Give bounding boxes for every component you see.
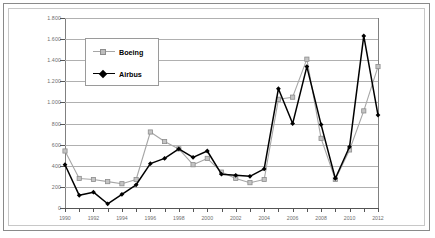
x-axis-tick-label: 2012 xyxy=(363,215,393,221)
y-axis-tick-label: 800 xyxy=(0,121,61,127)
x-axis-tick-label: 1994 xyxy=(107,215,137,221)
y-axis-tick-label: 1.200 xyxy=(0,78,61,84)
data-point-airbus-1991 xyxy=(77,193,82,198)
data-point-boeing-2012 xyxy=(376,64,380,68)
data-point-boeing-1997 xyxy=(162,139,166,143)
x-axis-tick-label: 2002 xyxy=(221,215,251,221)
x-axis-tick-label: 2000 xyxy=(192,215,222,221)
x-axis-tick-label: 1996 xyxy=(135,215,165,221)
y-axis-tick-label: 400 xyxy=(0,163,61,169)
chart-page: 02004006008001.0001.2001.4001.6001.800 1… xyxy=(0,0,435,238)
data-point-boeing-1995 xyxy=(134,177,138,181)
data-point-boeing-2000 xyxy=(205,156,209,160)
x-axis-tick-label: 2006 xyxy=(278,215,308,221)
legend-marker-airbus xyxy=(91,69,117,79)
x-axis-tick-label: 2010 xyxy=(335,215,365,221)
data-point-boeing-2008 xyxy=(319,136,323,140)
chart-legend: Boeing Airbus xyxy=(85,38,159,86)
y-axis-tick-label: 1.800 xyxy=(0,15,61,21)
x-axis-tick-label: 2008 xyxy=(306,215,336,221)
x-axis-label-group: 1990199219941996199820002002200420062008… xyxy=(65,209,379,223)
x-axis-tick-label: 2004 xyxy=(249,215,279,221)
x-axis-tick-label: 1990 xyxy=(50,215,80,221)
legend-marker-boeing xyxy=(91,47,117,57)
data-point-airbus-2005 xyxy=(276,86,281,91)
data-point-airbus-2011 xyxy=(361,34,366,39)
data-point-boeing-1990 xyxy=(63,149,67,153)
legend-label-airbus: Airbus xyxy=(119,70,142,79)
legend-label-boeing: Boeing xyxy=(119,48,143,57)
data-point-boeing-2003 xyxy=(248,181,252,185)
legend-item-airbus: Airbus xyxy=(86,66,158,82)
y-axis-tick-label: 600 xyxy=(0,142,61,148)
data-point-boeing-2006 xyxy=(291,95,295,99)
x-axis-tick-label: 1992 xyxy=(78,215,108,221)
data-point-boeing-1993 xyxy=(106,180,110,184)
y-axis-tick-label: 1.400 xyxy=(0,57,61,63)
x-axis-tick-label: 1998 xyxy=(164,215,194,221)
y-axis-tick-label: 200 xyxy=(0,184,61,190)
y-axis-tick-label: 0 xyxy=(0,205,61,211)
data-point-boeing-1994 xyxy=(120,182,124,186)
data-point-boeing-1992 xyxy=(91,177,95,181)
data-point-boeing-2007 xyxy=(305,57,309,61)
data-point-boeing-2004 xyxy=(262,177,266,181)
legend-item-boeing: Boeing xyxy=(86,44,158,60)
data-point-boeing-1991 xyxy=(77,176,81,180)
data-point-boeing-2011 xyxy=(362,109,366,113)
y-axis-tick-label: 1.000 xyxy=(0,99,61,105)
data-point-boeing-1996 xyxy=(148,130,152,134)
data-point-airbus-2006 xyxy=(290,121,295,126)
data-point-boeing-1999 xyxy=(191,163,195,167)
y-axis-tick-label: 1.600 xyxy=(0,36,61,42)
